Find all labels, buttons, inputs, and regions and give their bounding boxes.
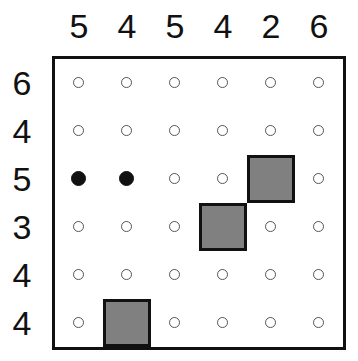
column-clue: 5 xyxy=(55,6,103,46)
grid-cell[interactable] xyxy=(247,59,295,107)
grid-cell[interactable] xyxy=(199,155,247,203)
grid-cell[interactable] xyxy=(55,203,103,251)
grid-cell[interactable] xyxy=(103,203,151,251)
empty-dot-icon xyxy=(169,221,180,232)
empty-dot-icon xyxy=(313,269,324,280)
grid-cell[interactable] xyxy=(103,251,151,299)
grid-cell[interactable] xyxy=(55,299,103,347)
empty-dot-icon xyxy=(169,77,180,88)
empty-dot-icon xyxy=(73,125,84,136)
row-clue: 6 xyxy=(0,59,44,107)
grid-cell[interactable] xyxy=(199,107,247,155)
grid-cell[interactable] xyxy=(247,251,295,299)
grid-cell[interactable] xyxy=(151,299,199,347)
grid-cell[interactable] xyxy=(199,203,247,251)
grid-cell[interactable] xyxy=(103,107,151,155)
grid-cell[interactable] xyxy=(295,251,343,299)
column-clue: 4 xyxy=(103,6,151,46)
grid-cell[interactable] xyxy=(55,155,103,203)
grid-cell[interactable] xyxy=(295,299,343,347)
row-clue: 3 xyxy=(0,203,44,251)
column-clue: 4 xyxy=(199,6,247,46)
empty-dot-icon xyxy=(73,221,84,232)
empty-dot-icon xyxy=(169,317,180,328)
empty-dot-icon xyxy=(121,269,132,280)
grid-cell[interactable] xyxy=(295,59,343,107)
filled-dot-icon xyxy=(71,171,86,186)
grid-cell[interactable] xyxy=(103,59,151,107)
row-clue: 4 xyxy=(0,251,44,299)
grid-cell[interactable] xyxy=(199,251,247,299)
empty-dot-icon xyxy=(217,173,228,184)
empty-dot-icon xyxy=(121,77,132,88)
empty-dot-icon xyxy=(217,77,228,88)
grid-cell[interactable] xyxy=(295,155,343,203)
grid-cell[interactable] xyxy=(247,299,295,347)
empty-dot-icon xyxy=(313,317,324,328)
empty-dot-icon xyxy=(265,317,276,328)
empty-dot-icon xyxy=(217,317,228,328)
empty-dot-icon xyxy=(313,221,324,232)
empty-dot-icon xyxy=(313,77,324,88)
grid-cell[interactable] xyxy=(55,107,103,155)
grid-cell[interactable] xyxy=(151,203,199,251)
grid-cell[interactable] xyxy=(247,107,295,155)
puzzle-grid xyxy=(52,56,346,350)
empty-dot-icon xyxy=(169,125,180,136)
grid-cell[interactable] xyxy=(295,107,343,155)
column-clue: 6 xyxy=(295,6,343,46)
grid-cell[interactable] xyxy=(55,251,103,299)
shaded-block xyxy=(103,299,151,347)
empty-dot-icon xyxy=(217,125,228,136)
shaded-block xyxy=(199,203,247,251)
empty-dot-icon xyxy=(313,125,324,136)
empty-dot-icon xyxy=(313,173,324,184)
grid-cell[interactable] xyxy=(199,59,247,107)
row-clue: 5 xyxy=(0,155,44,203)
grid-cell[interactable] xyxy=(247,203,295,251)
empty-dot-icon xyxy=(169,173,180,184)
grid-cell[interactable] xyxy=(151,155,199,203)
grid-cell[interactable] xyxy=(103,299,151,347)
grid-cell[interactable] xyxy=(151,59,199,107)
empty-dot-icon xyxy=(265,125,276,136)
grid-cell[interactable] xyxy=(103,155,151,203)
grid-cell[interactable] xyxy=(295,203,343,251)
grid-cell[interactable] xyxy=(151,107,199,155)
row-clue: 4 xyxy=(0,107,44,155)
grid-cell[interactable] xyxy=(199,299,247,347)
column-clue: 5 xyxy=(151,6,199,46)
grid-cell[interactable] xyxy=(55,59,103,107)
grid-cell[interactable] xyxy=(151,251,199,299)
grid-cell[interactable] xyxy=(247,155,295,203)
empty-dot-icon xyxy=(169,269,180,280)
empty-dot-icon xyxy=(121,221,132,232)
empty-dot-icon xyxy=(73,317,84,328)
empty-dot-icon xyxy=(73,269,84,280)
shaded-block xyxy=(247,155,295,203)
empty-dot-icon xyxy=(121,125,132,136)
empty-dot-icon xyxy=(265,221,276,232)
row-clue: 4 xyxy=(0,299,44,347)
empty-dot-icon xyxy=(265,77,276,88)
filled-dot-icon xyxy=(119,171,134,186)
empty-dot-icon xyxy=(265,269,276,280)
column-clue: 2 xyxy=(247,6,295,46)
empty-dot-icon xyxy=(73,77,84,88)
empty-dot-icon xyxy=(217,269,228,280)
